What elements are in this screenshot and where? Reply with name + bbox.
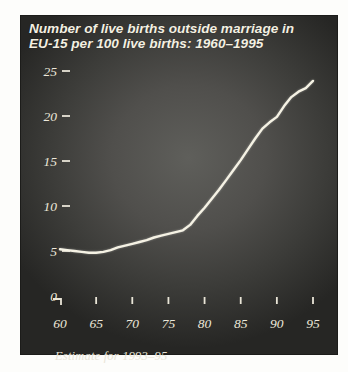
data-series-line (60, 81, 313, 253)
chart-title-line1: Number of live births outside marriage i… (29, 22, 332, 37)
x-axis-tick-label: 60 (53, 316, 67, 331)
y-axis-tick-label: 5 (50, 244, 57, 259)
y-axis-tick-label: 20 (44, 109, 58, 124)
y-axis-tick-label: 15 (44, 154, 58, 169)
x-axis-tick-label: 95 (306, 316, 320, 331)
x-axis-tick-label: 85 (234, 316, 248, 331)
line-chart: 05101520256065707580859095 (20, 15, 338, 355)
y-axis-tick-label: 0 (50, 289, 57, 304)
chart-panel: Number of live births outside marriage i… (20, 15, 338, 355)
y-axis-tick-label: 10 (44, 199, 58, 214)
x-axis-tick-label: 80 (198, 316, 212, 331)
x-axis-tick-label: 65 (89, 316, 103, 331)
chart-title-line2: EU-15 per 100 live births: 1960–1995 (29, 37, 332, 52)
y-axis-tick-label: 25 (44, 64, 58, 79)
footnote: Estimate for 1993–95 (55, 349, 167, 364)
x-axis-tick-label: 90 (270, 316, 284, 331)
x-axis-tick-label: 70 (126, 316, 140, 331)
chart-title: Number of live births outside marriage i… (20, 15, 338, 51)
page-background: Number of live births outside marriage i… (0, 0, 348, 372)
x-axis-tick-label: 75 (162, 316, 176, 331)
